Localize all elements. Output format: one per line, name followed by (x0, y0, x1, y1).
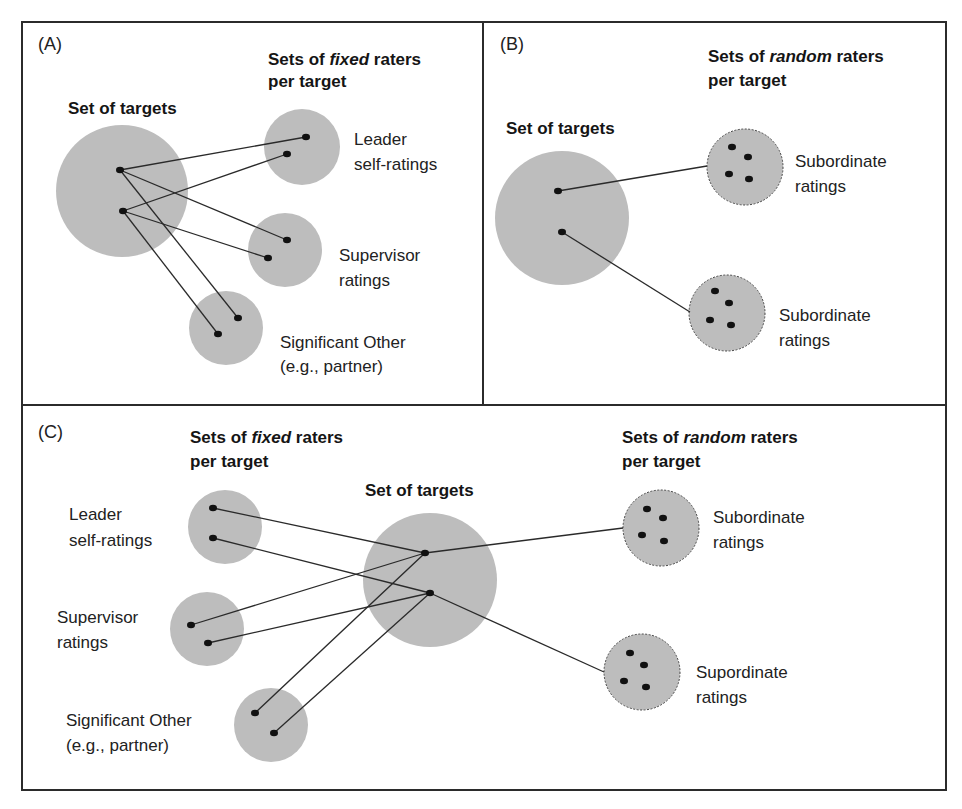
panel-b-shapes (495, 129, 783, 351)
panel-c-label-significant-other-2: (e.g., partner) (66, 735, 169, 757)
targets-circle (363, 513, 497, 647)
title-emphasis: fixed (329, 50, 369, 69)
panel-b-label-subordinate-2: Subordinate (779, 305, 871, 327)
supervisor-circle (248, 213, 322, 287)
leader-circle (188, 490, 262, 564)
panel-c-label-subordinate: Subordinate (713, 507, 805, 529)
panel-b-raters-title: Sets of random raters (708, 46, 884, 68)
random-circle-2 (604, 634, 680, 710)
title-text: raters (832, 47, 884, 66)
panel-b-label-subordinate-1: Subordinate (795, 151, 887, 173)
panel-a-label-leader-2: self-ratings (354, 154, 437, 176)
panel-b-tag: (B) (500, 34, 524, 55)
panel-c-fixed-title-line2: per target (190, 451, 268, 473)
panel-c-random-title: Sets of random raters (622, 427, 798, 449)
panel-a-targets-title: Set of targets (68, 98, 177, 120)
panel-c-label-leader: Leader (69, 504, 122, 526)
leader-circle (264, 109, 340, 185)
panel-a-raters-title: Sets of fixed raters (268, 49, 421, 71)
panel-c-tag: (C) (38, 422, 63, 443)
panel-c-targets-title: Set of targets (365, 480, 474, 502)
title-emphasis: fixed (251, 428, 291, 447)
panel-b-label-subordinate-1-2: ratings (795, 176, 846, 198)
panel-c-label-subordinate-2: ratings (713, 532, 764, 554)
significant-other-circle (234, 688, 308, 762)
title-text: Sets of (190, 428, 251, 447)
panel-c-fixed-title: Sets of fixed raters (190, 427, 343, 449)
panel-c-label-leader-2: self-ratings (69, 530, 152, 552)
panel-c-label-supordinate-2: ratings (696, 687, 747, 709)
panel-b-targets-title: Set of targets (506, 118, 615, 140)
frame (22, 22, 946, 790)
title-text: Sets of (708, 47, 769, 66)
panel-a-label-significant-other-2: (e.g., partner) (280, 356, 383, 378)
panel-a-raters-title-line2: per target (268, 71, 346, 93)
title-emphasis: random (683, 428, 745, 447)
title-text: raters (369, 50, 421, 69)
panel-b-label-subordinate-2-2: ratings (779, 330, 830, 352)
panel-a-label-supervisor-2: ratings (339, 270, 390, 292)
title-text: raters (746, 428, 798, 447)
panel-c-label-significant-other: Significant Other (66, 710, 192, 732)
panel-c-shapes (170, 490, 699, 762)
panel-a-label-significant-other: Significant Other (280, 332, 406, 354)
panel-b-raters-title-line2: per target (708, 70, 786, 92)
panel-c-random-title-line2: per target (622, 451, 700, 473)
supervisor-circle (170, 592, 244, 666)
title-text: raters (291, 428, 343, 447)
random-circle-1 (623, 490, 699, 566)
targets-circle (56, 125, 188, 257)
panel-c-label-supervisor-2: ratings (57, 632, 108, 654)
panel-c-label-supervisor: Supervisor (57, 607, 138, 629)
panel-a-tag: (A) (38, 34, 62, 55)
diagram-canvas (0, 0, 962, 809)
random-circle-2 (689, 275, 765, 351)
panel-a-label-supervisor: Supervisor (339, 245, 420, 267)
title-emphasis: random (769, 47, 831, 66)
targets-circle (495, 151, 629, 285)
panel-c-label-supordinate: Supordinate (696, 662, 788, 684)
panel-a-shapes (56, 109, 340, 365)
title-text: Sets of (268, 50, 329, 69)
title-text: Sets of (622, 428, 683, 447)
panel-a-label-leader: Leader (354, 129, 407, 151)
random-circle-1 (707, 129, 783, 205)
